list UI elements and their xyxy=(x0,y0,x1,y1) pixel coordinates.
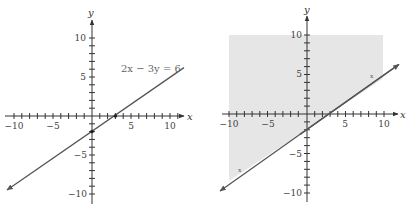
x-tick-label: −5 xyxy=(46,121,60,131)
x-axis-label: x xyxy=(400,109,406,120)
x-intercept-point xyxy=(114,114,118,118)
y-tick-label: 5 xyxy=(296,69,302,79)
y-tick-label: 10 xyxy=(291,30,303,40)
x-tick-label: −10 xyxy=(5,121,24,131)
x-tick-label: 5 xyxy=(342,119,348,129)
figure: −10 −5 5 10 10 5 −5 −10 x y 2x − 3y = 6 … xyxy=(0,0,406,214)
y-intercept-point xyxy=(90,130,94,134)
y-axis-label: y xyxy=(87,7,94,18)
equation-line xyxy=(7,68,184,190)
y-tick-label: −5 xyxy=(289,149,303,159)
shaded-region xyxy=(229,35,383,181)
y-axis-label: y xyxy=(303,4,310,15)
y-tick-label: −5 xyxy=(74,150,88,160)
left-graph: −10 −5 5 10 10 5 −5 −10 x y 2x − 3y = 6 xyxy=(5,7,194,204)
y-tick-label: −10 xyxy=(283,188,302,198)
x-tick-label: −10 xyxy=(220,119,239,129)
equation-label: 2x − 3y = 6 xyxy=(121,63,181,74)
y-tick-label: −10 xyxy=(68,189,87,199)
x-tick-label: 10 xyxy=(164,121,176,131)
y-tick-label: 10 xyxy=(75,33,87,43)
x-axis-label: x xyxy=(187,111,193,122)
x-tick-label: 5 xyxy=(128,121,134,131)
x-tick-label: −5 xyxy=(261,119,275,129)
x-tick-label: 10 xyxy=(378,119,390,129)
y-tick-label: 5 xyxy=(80,72,86,82)
right-graph: −10 −5 5 10 10 5 −5 −10 x y x x xyxy=(220,4,406,202)
